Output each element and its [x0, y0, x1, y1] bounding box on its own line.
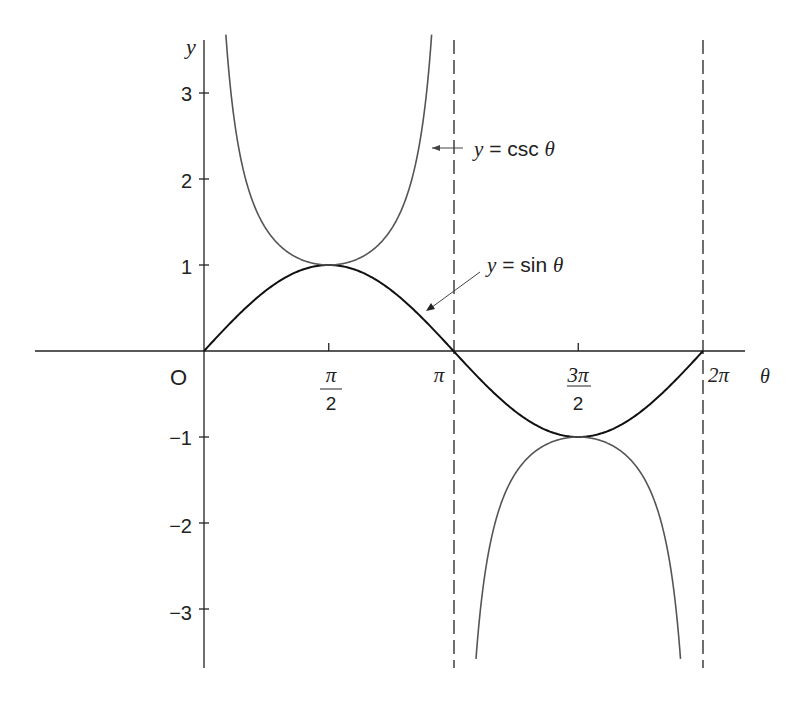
y-tick-label-3: 3 — [181, 83, 192, 105]
svg-text:π: π — [326, 363, 337, 387]
origin-label: O — [170, 365, 187, 390]
x-tick-label-2pi: 2π — [708, 363, 730, 387]
svg-text:2: 2 — [573, 393, 584, 414]
x-tick-label-pi-over-2: π 2 — [320, 363, 342, 414]
svg-text:2: 2 — [326, 393, 337, 414]
y-axis-label: y — [184, 34, 196, 59]
csc-annotation: y = csc θ — [432, 137, 555, 161]
y-tick-label-1: 1 — [181, 256, 192, 278]
x-tick-label-pi: π — [434, 363, 445, 387]
csc-curve-upper — [226, 35, 432, 265]
y-tick-label-neg2: −2 — [169, 515, 192, 537]
x-axis-label: θ — [760, 365, 770, 387]
csc-curve-lower — [476, 437, 681, 659]
chart-canvas: y θ O π 2 π 3π 2 2π 3 2 1 −1 −2 −3 y = c… — [0, 0, 812, 701]
y-tick-label-2: 2 — [181, 170, 192, 192]
y-tick-label-neg3: −3 — [169, 602, 192, 624]
svg-text:y = csc θ: y = csc θ — [472, 137, 555, 161]
y-tick-label-neg1: −1 — [169, 427, 192, 449]
x-tick-label-3pi-over-2: 3π 2 — [566, 363, 591, 414]
svg-text:y = sin θ: y = sin θ — [485, 253, 563, 277]
svg-text:3π: 3π — [566, 363, 589, 387]
sin-annotation: y = sin θ — [426, 253, 563, 311]
